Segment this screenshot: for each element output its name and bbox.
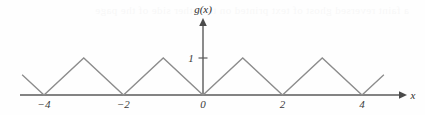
y-axis-arrow-icon (199, 18, 207, 26)
x-tick-label-2: 2 (280, 98, 286, 110)
x-tick-label-4: 4 (359, 98, 365, 110)
x-tick-label-0: 0 (200, 98, 206, 110)
y-axis-label: g(x) (194, 3, 212, 16)
x-axis-label: x (410, 89, 416, 101)
x-tick-label-minus4: −4 (38, 98, 51, 110)
triangle-wave-plot: g(x) x 1 −4 −2 0 2 4 (0, 0, 425, 115)
y-tick-label-1: 1 (188, 52, 194, 64)
x-axis-arrow-icon (399, 91, 407, 99)
figure-container: a faint reversed ghost of text printed o… (0, 0, 425, 115)
x-tick-label-minus2: −2 (117, 98, 130, 110)
